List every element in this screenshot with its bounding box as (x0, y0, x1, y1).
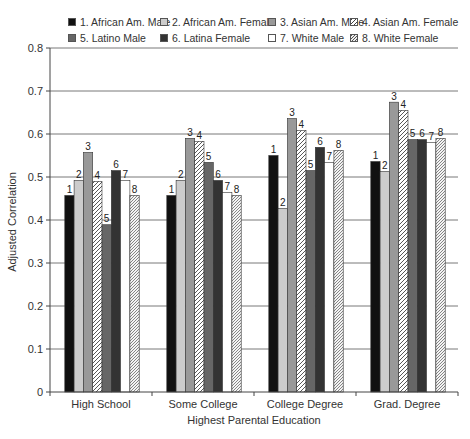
bar-label: 6 (215, 169, 221, 180)
bar-label: 4 (299, 119, 305, 130)
bar (334, 150, 343, 392)
bar (417, 140, 426, 392)
bar-label: 2 (178, 169, 184, 180)
bar (269, 156, 278, 393)
bar-group: 12345678 (269, 107, 343, 392)
legend-label: 4. Asian Am. Female (362, 16, 458, 28)
bar-label: 3 (187, 127, 193, 138)
bar (102, 225, 111, 392)
x-category-label: Some College (168, 398, 237, 410)
legend-item: 7. White Male (268, 32, 344, 44)
bar-label: 7 (224, 181, 230, 192)
bar-label: 3 (391, 91, 397, 102)
y-tick-label: 0.6 (28, 128, 43, 140)
legend-item: 4. Asian Am. Female (350, 16, 458, 28)
bar (380, 171, 389, 392)
bar-label: 1 (271, 144, 277, 155)
bar-chart: 12345678123456781234567812345678 00.10.2… (0, 0, 470, 439)
bar-label: 6 (317, 136, 323, 147)
bar (130, 195, 139, 392)
y-tick-label: 0.7 (28, 85, 43, 97)
bar (74, 180, 83, 392)
legend-swatch-icon (268, 18, 276, 26)
bar-label: 4 (197, 130, 203, 141)
legend-item: 1. African Am. Male (68, 16, 170, 28)
bar (185, 138, 194, 392)
x-axis-title: Highest Parental Education (187, 414, 320, 426)
y-tick-label: 0.4 (28, 214, 43, 226)
y-tick-label: 0 (37, 386, 43, 398)
bar (315, 147, 324, 392)
legend-item: 2. African Am. Female (160, 16, 275, 28)
bar-label: 3 (289, 107, 295, 118)
bar-label: 8 (132, 184, 138, 195)
legend-label: 2. African Am. Female (172, 16, 275, 28)
bar (121, 180, 130, 392)
y-axis-title: Adjusted Correlation (6, 172, 18, 272)
bar-label: 6 (113, 159, 119, 170)
bar-label: 1 (373, 150, 379, 161)
bar (167, 195, 176, 392)
bar-group: 12345678 (167, 127, 241, 392)
bar-label: 5 (206, 151, 212, 162)
bar (389, 102, 398, 392)
legend-swatch-icon (350, 34, 358, 42)
legend-label: 7. White Male (280, 32, 344, 44)
bar-label: 1 (67, 184, 73, 195)
y-tick-label: 0.3 (28, 257, 43, 269)
bar (195, 141, 204, 392)
bar (213, 180, 222, 392)
legend: 1. African Am. Male2. African Am. Female… (0, 0, 470, 46)
bar-label: 6 (419, 128, 425, 139)
bar (371, 162, 380, 392)
bar (204, 162, 213, 392)
bar (287, 119, 296, 392)
bar (176, 180, 185, 392)
legend-swatch-icon (160, 34, 168, 42)
bar-label: 4 (95, 170, 101, 181)
bar (83, 152, 92, 392)
bar-label: 1 (169, 184, 175, 195)
x-category-label: High School (71, 398, 130, 410)
bar (325, 162, 334, 392)
y-tick-label: 0.2 (28, 300, 43, 312)
bar (93, 181, 102, 392)
legend-swatch-icon (268, 34, 276, 42)
bar (278, 208, 287, 392)
y-tick-labels: 00.10.20.30.40.50.60.70.8 (28, 42, 43, 398)
bar-label: 2 (76, 169, 82, 180)
legend-swatch-icon (350, 18, 358, 26)
legend-label: 8. White Female (362, 32, 438, 44)
y-tick-label: 0.5 (28, 171, 43, 183)
bar (427, 143, 436, 392)
bar-label: 2 (280, 197, 286, 208)
bar (223, 192, 232, 392)
bar-label: 4 (401, 99, 407, 110)
legend-label: 6. Latina Female (172, 32, 250, 44)
bar (399, 110, 408, 392)
x-category-label: College Degree (267, 398, 343, 410)
bar-label: 5 (410, 128, 416, 139)
bar (436, 138, 445, 392)
x-category-labels: High SchoolSome CollegeCollege DegreeGra… (71, 398, 440, 410)
x-category-label: Grad. Degree (374, 398, 441, 410)
bars: 12345678123456781234567812345678 (65, 91, 445, 392)
bar-label: 8 (234, 184, 240, 195)
bar (408, 140, 417, 392)
bar-group: 12345678 (65, 141, 139, 392)
legend-label: 5. Latino Male (80, 32, 146, 44)
bar-label: 8 (438, 127, 444, 138)
bar-label: 5 (308, 159, 314, 170)
bar (65, 195, 74, 392)
bar (232, 195, 241, 392)
bar-label: 5 (104, 213, 110, 224)
legend-item: 5. Latino Male (68, 32, 146, 44)
bar (306, 171, 315, 392)
legend-swatch-icon (160, 18, 168, 26)
legend-label: 1. African Am. Male (80, 16, 170, 28)
bar-label: 2 (382, 160, 388, 171)
bar-label: 8 (336, 139, 342, 150)
bar (297, 131, 306, 392)
legend-item: 8. White Female (350, 32, 438, 44)
legend-item: 6. Latina Female (160, 32, 250, 44)
